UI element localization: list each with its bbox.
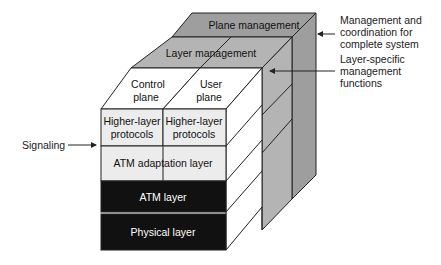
higher-layer-control-label-2: protocols xyxy=(111,128,154,140)
plane-mgmt-annotation-2: coordination for xyxy=(340,26,413,38)
atm-layer-label: ATM layer xyxy=(139,191,187,203)
atm-reference-model-diagram: Plane management Layer management Contro… xyxy=(0,0,441,265)
higher-layer-user-label-1: Higher-layer xyxy=(165,115,223,127)
atm-adaptation-layer-label: ATM adaptation layer xyxy=(113,157,213,169)
plane-mgmt-annotation-1: Management and xyxy=(340,14,422,26)
higher-layer-control-label-1: Higher-layer xyxy=(103,115,161,127)
user-plane-label-1: User xyxy=(200,78,223,90)
layer-mgmt-annotation-2: management xyxy=(340,65,401,77)
control-plane-label-2: plane xyxy=(133,91,159,103)
layer-mgmt-annotation-1: Layer-specific xyxy=(340,53,405,65)
plane-management-label: Plane management xyxy=(208,19,299,31)
layer-management-side-face xyxy=(262,37,292,230)
physical-layer-label: Physical layer xyxy=(131,226,196,238)
layer-mgmt-annotation-3: functions xyxy=(340,77,382,89)
layer-management-label: Layer management xyxy=(166,47,257,59)
control-plane-label-1: Control xyxy=(131,78,165,90)
plane-management-side-face xyxy=(292,13,316,199)
plane-mgmt-annotation-3: complete system xyxy=(340,38,419,50)
higher-layer-user-label-2: protocols xyxy=(173,128,216,140)
user-plane-label-2: plane xyxy=(196,91,222,103)
signaling-annotation: Signaling xyxy=(22,139,65,151)
